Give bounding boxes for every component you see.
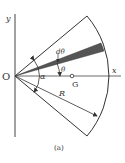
figure-caption: (a)	[54, 144, 64, 152]
d-theta-label: dθ	[56, 48, 65, 56]
x-axis-label: x	[112, 66, 117, 75]
centroid-label: G	[72, 80, 78, 89]
radius-label: R	[58, 89, 65, 98]
centroid-point	[70, 74, 74, 78]
sector-centroid-diagram: O y x dθ θ α G R (a)	[0, 0, 125, 163]
alpha-label: α	[40, 72, 46, 81]
theta-angle-arc	[57, 63, 60, 76]
y-axis-label: y	[5, 14, 11, 23]
theta-label: θ	[61, 66, 66, 74]
origin-label: O	[2, 71, 10, 82]
